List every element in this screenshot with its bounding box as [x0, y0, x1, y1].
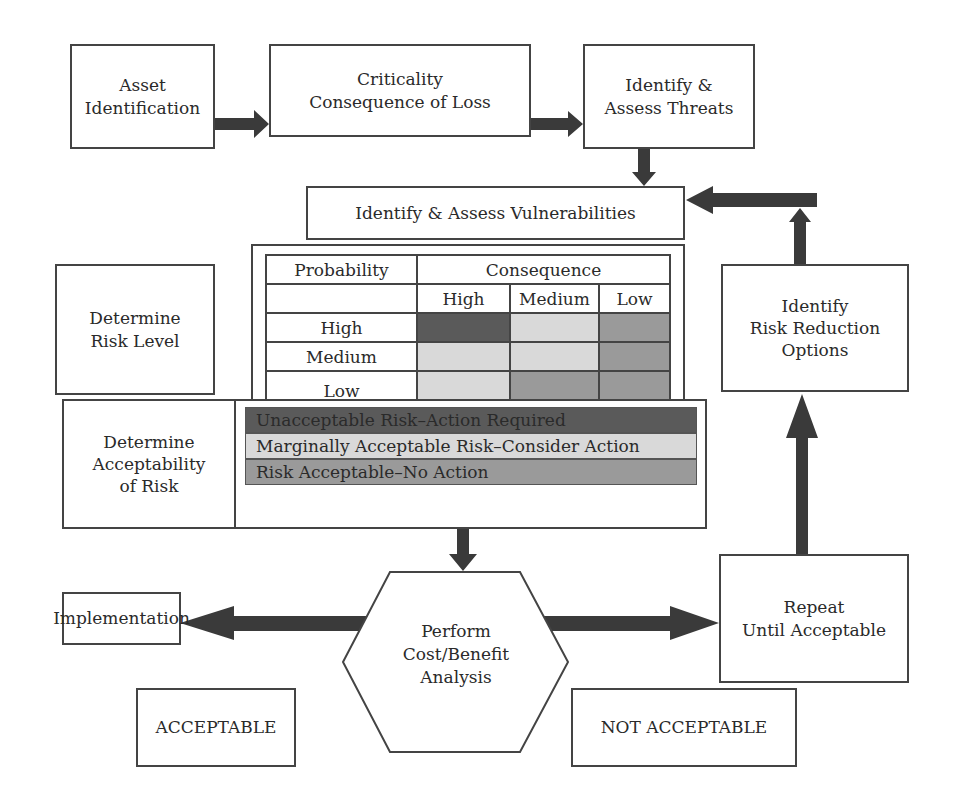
asset-identification-line2: Identification — [85, 97, 200, 119]
risk-reduction-line1: Identify — [750, 295, 880, 317]
arrow-criticality-to-threats — [530, 111, 583, 137]
matrix-cell-high-high — [417, 313, 510, 342]
criticality-box: Criticality Consequence of Loss — [269, 44, 531, 137]
implementation-box: Implementation — [62, 592, 181, 645]
cost-benefit-line2: Cost/Benefit — [343, 643, 569, 666]
not-acceptable-label: NOT ACCEPTABLE — [601, 716, 768, 738]
threats-line2: Assess Threats — [605, 97, 734, 119]
acceptable-label: ACCEPTABLE — [155, 716, 276, 738]
vulnerabilities-label: Identify & Assess Vulnerabilities — [355, 202, 635, 224]
matrix-cell-medium-high — [417, 342, 510, 371]
matrix-row-medium-label: Medium — [266, 342, 417, 371]
vulnerabilities-box: Identify & Assess Vulnerabilities — [306, 186, 685, 240]
acceptability-line2: Acceptability — [93, 453, 206, 475]
risk-reduction-line2: Risk Reduction — [750, 317, 880, 339]
arrow-feedback-to-vulnerabilities — [686, 186, 817, 214]
risk-legend: Unacceptable Risk–Action Required Margin… — [245, 407, 697, 485]
acceptability-label: Determine Acceptability of Risk — [64, 401, 236, 527]
criticality-line1: Criticality — [309, 68, 491, 90]
arrow-asset-to-criticality — [214, 110, 269, 138]
risk-matrix: Probability Consequence High Medium Low … — [265, 254, 671, 411]
matrix-col-low: Low — [599, 284, 670, 313]
implementation-label: Implementation — [53, 607, 190, 629]
matrix-col-medium: Medium — [510, 284, 599, 313]
matrix-row-high-label: High — [266, 313, 417, 342]
risk-level-line1: Determine — [89, 307, 180, 329]
criticality-line2: Consequence of Loss — [309, 91, 491, 113]
matrix-cell-high-low — [599, 313, 670, 342]
matrix-col-high: High — [417, 284, 510, 313]
threats-line1: Identify & — [605, 74, 734, 96]
asset-identification-box: Asset Identification — [70, 44, 215, 149]
cost-benefit-line3: Analysis — [343, 666, 569, 689]
risk-reduction-line3: Options — [750, 339, 880, 361]
risk-matrix-container: Probability Consequence High Medium Low … — [251, 244, 685, 402]
risk-level-box: Determine Risk Level — [55, 264, 215, 395]
arrow-risk-reduction-up — [789, 208, 811, 264]
repeat-line2: Until Acceptable — [742, 619, 886, 641]
matrix-cell-medium-low — [599, 342, 670, 371]
cost-benefit-label: Perform Cost/Benefit Analysis — [343, 620, 569, 689]
risk-reduction-box: Identify Risk Reduction Options — [721, 264, 909, 392]
acceptable-outcome-box: ACCEPTABLE — [136, 688, 296, 767]
acceptability-line3: of Risk — [93, 475, 206, 497]
matrix-cell-high-medium — [510, 313, 599, 342]
legend-acceptable: Risk Acceptable–No Action — [245, 459, 697, 485]
arrow-threats-to-vulnerabilities — [632, 148, 656, 186]
arrow-repeat-to-risk-reduction — [786, 394, 818, 554]
matrix-col-header: Consequence — [417, 255, 670, 284]
risk-level-line2: Risk Level — [89, 330, 180, 352]
asset-identification-line1: Asset — [85, 74, 200, 96]
repeat-line1: Repeat — [742, 596, 886, 618]
repeat-box: Repeat Until Acceptable — [719, 554, 909, 683]
matrix-corner-cell — [266, 284, 417, 313]
cost-benefit-line1: Perform — [343, 620, 569, 643]
matrix-cell-medium-medium — [510, 342, 599, 371]
acceptability-line1: Determine — [93, 431, 206, 453]
not-acceptable-box: NOT ACCEPTABLE — [571, 688, 797, 767]
legend-marginal: Marginally Acceptable Risk–Consider Acti… — [245, 433, 697, 459]
threats-box: Identify & Assess Threats — [583, 44, 755, 149]
acceptability-box: Determine Acceptability of Risk Unaccept… — [62, 399, 707, 529]
arrow-acceptability-to-cost-benefit — [449, 528, 477, 571]
legend-unacceptable: Unacceptable Risk–Action Required — [245, 407, 697, 433]
matrix-row-header: Probability — [266, 255, 417, 284]
